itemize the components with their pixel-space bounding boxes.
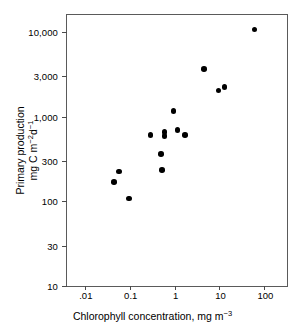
x-axis-label: Chlorophyll concentration, mg m−3 xyxy=(0,310,305,322)
x-tick-p01: .01 xyxy=(85,286,86,290)
y-axis-label-mid: d xyxy=(27,129,39,135)
x-tick-0p1: 0.1 xyxy=(130,286,131,290)
x-axis-label-text: Chlorophyll concentration, mg m xyxy=(73,310,224,322)
chart-figure: 10301003001,0003,00010,000 .010.1110100 … xyxy=(0,0,305,330)
data-point xyxy=(201,66,207,72)
x-tick-1: 1 xyxy=(175,286,176,290)
data-point xyxy=(175,127,181,133)
x-tick-label: 0.1 xyxy=(124,291,137,301)
plot-area: 10301003001,0003,00010,000 .010.1110100 xyxy=(66,14,288,287)
data-point xyxy=(111,179,117,185)
data-point xyxy=(159,167,165,173)
y-axis-label-exp1: −2 xyxy=(26,135,35,144)
data-point xyxy=(182,132,188,138)
data-point xyxy=(116,169,122,175)
data-point xyxy=(222,84,228,90)
x-tick-label: 1 xyxy=(173,291,178,301)
data-point xyxy=(171,108,177,114)
x-tick-label: .01 xyxy=(79,291,92,301)
y-tick-label: 10 xyxy=(47,282,58,292)
y-tick-10: 10 xyxy=(62,286,67,287)
x-tick-10: 10 xyxy=(219,286,220,290)
data-point xyxy=(158,151,164,157)
y-axis-label-exp2: −1 xyxy=(26,121,35,130)
scatter-points xyxy=(67,15,287,286)
y-axis-label-line1: Primary production xyxy=(14,14,27,287)
x-tick-label: 10 xyxy=(215,291,226,301)
y-axis-label-line2: mg C m−2d−1 xyxy=(27,14,40,287)
y-axis-label: Primary production mg C m−2d−1 xyxy=(14,14,48,287)
data-point xyxy=(148,132,154,138)
x-tick-100: 100 xyxy=(264,286,265,290)
y-axis-label-units: mg C m xyxy=(27,144,39,181)
y-tick-label: 30 xyxy=(47,242,58,252)
x-axis-label-exp: −3 xyxy=(223,309,232,318)
data-point xyxy=(162,133,168,139)
x-tick-label: 100 xyxy=(257,291,273,301)
data-point xyxy=(216,88,222,94)
data-point xyxy=(126,196,132,202)
data-point xyxy=(252,27,258,33)
